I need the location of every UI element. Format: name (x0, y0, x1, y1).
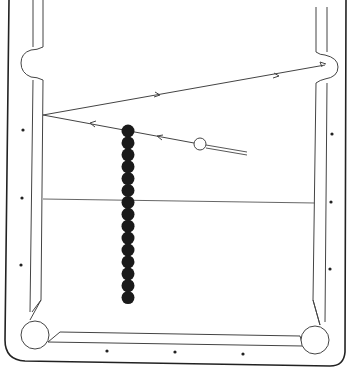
object-ball (122, 244, 135, 257)
object-ball (122, 208, 135, 221)
diamond-marker (173, 350, 176, 353)
diamond-marker (330, 132, 333, 135)
object-ball (122, 291, 135, 304)
bottom-cushion (48, 332, 303, 346)
cue-ball (194, 138, 206, 150)
diamond-marker (19, 263, 22, 266)
reference-line (43, 199, 315, 203)
object-ball (122, 160, 135, 173)
table-outer-rail (5, 0, 346, 366)
rail-diamonds (19, 128, 333, 355)
diamond-marker (328, 267, 331, 270)
bottom-right-pocket (301, 326, 329, 354)
object-ball (122, 267, 135, 280)
object-ball (122, 125, 135, 138)
object-ball (122, 184, 135, 197)
shot-path (43, 62, 326, 143)
left-cushion (21, 0, 43, 312)
diamond-marker (20, 196, 23, 199)
right-cushion (313, 7, 338, 325)
diamond-marker (241, 352, 244, 355)
object-ball (122, 279, 135, 292)
arrow-icon (320, 62, 326, 67)
object-ball (122, 220, 135, 233)
diamond-marker (105, 349, 108, 352)
object-ball (122, 136, 135, 149)
cue-stick (206, 145, 247, 155)
diamond-marker (21, 128, 24, 131)
object-ball (122, 148, 135, 161)
bottom-left-pocket (21, 321, 49, 349)
diamond-marker (329, 200, 332, 203)
object-ball (122, 232, 135, 245)
pool-table-diagram (0, 0, 349, 369)
object-ball (122, 172, 135, 185)
object-ball-column (122, 125, 135, 305)
object-ball (122, 196, 135, 209)
object-ball (122, 255, 135, 268)
